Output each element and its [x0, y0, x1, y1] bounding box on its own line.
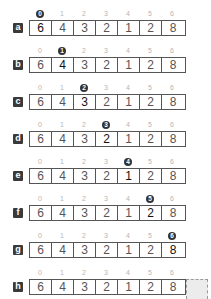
index-circle: 1 [58, 47, 66, 55]
array-cell: 2 [140, 58, 162, 72]
index-label: 0 [29, 195, 51, 203]
array-cell: 3 [74, 132, 96, 146]
array-cell: 2 [140, 132, 162, 146]
index-label: 3 [95, 232, 117, 240]
index-label: 4 [117, 47, 139, 55]
row-label-badge: h [13, 282, 23, 292]
index-circle: 3 [102, 121, 110, 129]
array-cell: 2 [140, 169, 162, 183]
array-box: 6432128 [29, 279, 186, 295]
array-box: 6432128 [29, 94, 186, 110]
index-label: 2 [73, 232, 95, 240]
array-box: 6432128 [29, 205, 186, 221]
array-cell: 4 [52, 206, 74, 220]
array-cell: 2 [96, 280, 118, 294]
array-cell: 3 [74, 169, 96, 183]
array-cell: 2 [96, 243, 118, 257]
array-cell: 1 [118, 132, 140, 146]
index-label: 1 [51, 121, 73, 129]
index-label: 6 [161, 47, 183, 55]
index-label: 5 [139, 158, 161, 166]
index-label: 6 [161, 84, 183, 92]
index-label: 0 [29, 47, 51, 55]
active-array-cell: 2 [140, 206, 162, 220]
array-cell: 3 [74, 243, 96, 257]
array-cell: 6 [30, 132, 52, 146]
array-box: 6432128 [29, 242, 186, 258]
index-label: 0 [29, 121, 51, 129]
active-index-marker: 1 [51, 47, 73, 55]
array-cell: 3 [74, 280, 96, 294]
active-array-cell: 2 [96, 132, 118, 146]
index-label: 6 [161, 195, 183, 203]
array-cell: 8 [162, 132, 184, 146]
index-label: 3 [95, 158, 117, 166]
index-circle: 2 [80, 84, 88, 92]
row-label-badge: c [13, 97, 23, 107]
index-label: 5 [139, 47, 161, 55]
index-circle: 4 [124, 158, 132, 166]
index-label: 5 [139, 121, 161, 129]
array-cell: 6 [30, 206, 52, 220]
index-label: 5 [139, 232, 161, 240]
index-circle: 6 [168, 232, 176, 240]
array-cell: 2 [96, 58, 118, 72]
array-cell: 2 [96, 95, 118, 109]
row-label-badge: f [13, 208, 23, 218]
index-circle: 5 [146, 195, 154, 203]
array-cell: 3 [74, 58, 96, 72]
index-label: 1 [51, 158, 73, 166]
index-label: 6 [161, 269, 183, 277]
index-label: 1 [51, 195, 73, 203]
index-label: 1 [51, 269, 73, 277]
index-label: 5 [139, 84, 161, 92]
index-label: 4 [117, 84, 139, 92]
array-cell: 1 [118, 280, 140, 294]
array-cell: 8 [162, 206, 184, 220]
array-cell: 6 [30, 243, 52, 257]
index-label: 3 [95, 195, 117, 203]
array-cell: 4 [52, 132, 74, 146]
index-label: 3 [95, 269, 117, 277]
index-label: 1 [51, 84, 73, 92]
index-label: 6 [161, 121, 183, 129]
active-index-marker: 3 [95, 121, 117, 129]
index-label: 3 [95, 47, 117, 55]
array-cell: 4 [52, 95, 74, 109]
array-cell: 4 [52, 169, 74, 183]
row-label-badge: b [13, 60, 23, 70]
index-label: 2 [73, 158, 95, 166]
array-cell: 6 [30, 58, 52, 72]
index-label: 2 [73, 121, 95, 129]
row-label-badge: g [13, 245, 23, 255]
array-box: 6432128 [29, 168, 186, 184]
array-cell: 6 [30, 169, 52, 183]
index-label: 2 [73, 47, 95, 55]
array-box: 6432128 [29, 57, 186, 73]
array-cell: 1 [118, 206, 140, 220]
active-index-marker: 6 [161, 232, 183, 240]
active-array-cell: 3 [74, 95, 96, 109]
array-cell: 6 [30, 95, 52, 109]
active-index-marker: 5 [139, 195, 161, 203]
array-cell: 8 [162, 169, 184, 183]
active-index-marker: 2 [73, 84, 95, 92]
array-cell: 8 [162, 95, 184, 109]
array-row-h: h01234566432128 [0, 0, 211, 37]
index-label: 4 [117, 269, 139, 277]
array-cell: 2 [140, 280, 162, 294]
array-cell: 1 [118, 95, 140, 109]
array-cell: 4 [52, 280, 74, 294]
index-label: 0 [29, 158, 51, 166]
index-label: 0 [29, 269, 51, 277]
array-cell: 2 [140, 95, 162, 109]
index-label: 2 [73, 195, 95, 203]
index-label: 1 [51, 232, 73, 240]
array-cell: 1 [118, 58, 140, 72]
row-label-badge: e [13, 171, 23, 181]
index-label: 4 [117, 195, 139, 203]
array-extension-slot [186, 279, 208, 299]
active-array-cell: 4 [52, 58, 74, 72]
array-box: 6432128 [29, 131, 186, 147]
row-label-badge: d [13, 134, 23, 144]
